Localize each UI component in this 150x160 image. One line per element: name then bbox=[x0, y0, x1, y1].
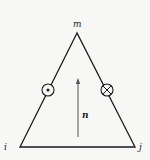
vertex-label-i: i bbox=[4, 143, 7, 152]
triangle-diagram: m i j n bbox=[0, 0, 150, 160]
vertex-label-m: m bbox=[73, 20, 82, 29]
dot-in-circle-icon bbox=[42, 84, 54, 96]
vertex-label-j: j bbox=[139, 143, 142, 152]
cross-in-circle-icon bbox=[101, 84, 113, 96]
normal-vector-arrow-icon bbox=[76, 78, 80, 137]
vector-label-n: n bbox=[82, 111, 89, 120]
